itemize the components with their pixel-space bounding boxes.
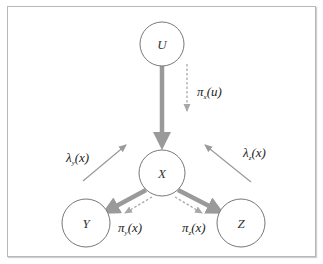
node-u-label: U — [157, 37, 168, 52]
node-y: Y — [62, 199, 110, 247]
node-x-label: X — [157, 166, 167, 181]
node-z-label: Z — [237, 216, 245, 231]
message-lambda-y-x-arrow — [83, 145, 126, 181]
node-z: Z — [217, 199, 265, 247]
message-lambda-z-x-label: λz(x) — [242, 145, 266, 162]
message-pi-z-x-label: πz(x) — [182, 220, 206, 237]
edge-x-to-z — [178, 190, 217, 210]
edge-x-to-y — [109, 190, 146, 210]
node-u: U — [140, 22, 184, 66]
node-x: X — [139, 150, 185, 196]
message-lambda-y-x-label: λy(x) — [65, 150, 89, 167]
message-pi-y-x-label: πy(x) — [118, 220, 142, 237]
message-pi-x-u-label: πx(u) — [197, 84, 222, 101]
diagram-canvas: πx(u) λy(x) λz(x) πy(x) πz(x) U X Y Z — [0, 0, 323, 264]
